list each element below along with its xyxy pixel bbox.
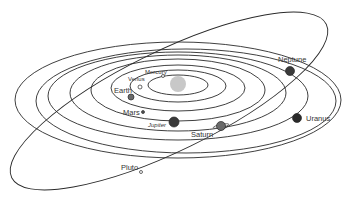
sun-icon [170, 76, 186, 92]
orbit-pluto [0, 0, 348, 205]
planet-label-pluto: Pluto [121, 163, 138, 172]
pluto-orbit-group [0, 0, 348, 205]
planet-saturn-icon [217, 122, 226, 131]
planet-pluto-icon [140, 171, 143, 174]
planet-label-uranus: Uranus [306, 114, 330, 123]
planet-label-mercury: Mercury [145, 69, 167, 75]
planet-label-saturn: Saturn [191, 130, 213, 139]
planet-neptune-icon [286, 67, 295, 76]
planet-mars-icon [142, 111, 145, 114]
planet-label-venus: Venus [128, 76, 145, 82]
planet-jupiter-icon [169, 117, 179, 127]
sun-group [170, 76, 186, 92]
planet-label-neptune: Neptune [278, 55, 306, 64]
planet-venus-icon [138, 85, 142, 89]
planet-label-mars: Mars [123, 108, 140, 117]
planet-label-earth: Earth [114, 86, 132, 95]
planet-uranus-icon [293, 114, 302, 123]
orbit-uranus [36, 49, 336, 153]
solar-system-diagram: MercuryVenusEarthMarsJupiterSaturnUranus… [0, 0, 359, 205]
planet-label-jupiter: Jupiter [147, 122, 167, 128]
